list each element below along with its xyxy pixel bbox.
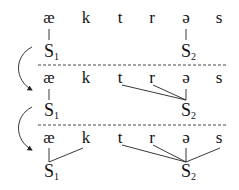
svg-text:k: k <box>82 68 91 87</box>
svg-text:s: s <box>216 68 223 87</box>
svg-text:t: t <box>118 128 123 147</box>
segment-s: s <box>216 8 223 27</box>
svg-text:ə: ə <box>182 128 190 147</box>
stage-2: æ k t r ə s S 1 S 2 <box>43 68 222 121</box>
svg-text:S: S <box>44 100 54 120</box>
syllable-2: S <box>181 41 191 61</box>
svg-text:æ: æ <box>43 128 54 147</box>
svg-text:æ: æ <box>43 68 54 87</box>
svg-text:k: k <box>82 128 91 147</box>
svg-text:r: r <box>149 128 155 147</box>
segment-t: t <box>118 8 123 27</box>
segment-r: r <box>149 8 155 27</box>
svg-text:2: 2 <box>191 51 196 62</box>
svg-text:s: s <box>216 128 223 147</box>
svg-text:2: 2 <box>191 110 196 121</box>
svg-text:ə: ə <box>182 68 190 87</box>
svg-text:S: S <box>181 100 191 120</box>
segment-ae: æ <box>43 8 54 27</box>
svg-text:t: t <box>118 68 123 87</box>
svg-text:S: S <box>44 161 54 181</box>
svg-text:1: 1 <box>54 51 59 62</box>
svg-text:1: 1 <box>54 171 59 182</box>
svg-text:2: 2 <box>191 171 196 182</box>
svg-text:1: 1 <box>54 110 59 121</box>
syllable-1: S <box>44 41 54 61</box>
syllabification-diagram: æ k t r ə s S 1 S 2 æ k t r ə s S 1 S 2 … <box>0 0 239 190</box>
stage-1: æ k t r ə s S 1 S 2 <box>43 8 222 62</box>
segment-k: k <box>82 8 91 27</box>
segment-schwa: ə <box>182 8 190 27</box>
stage-3: æ k t r ə s S 1 S 2 <box>43 128 222 182</box>
arrow-stage-2-to-3 <box>19 107 33 150</box>
svg-text:S: S <box>181 161 191 181</box>
arrow-stage-1-to-2 <box>19 47 33 90</box>
svg-text:r: r <box>149 68 155 87</box>
